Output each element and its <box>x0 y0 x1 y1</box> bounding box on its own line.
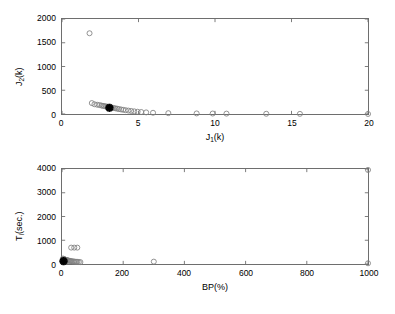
xtick-label-600: 600 <box>232 269 260 278</box>
chart-panel-bandwidth-time-space: 0 1000 2000 3000 4000 0 200 400 600 800 … <box>0 157 395 314</box>
data-point-circle <box>75 245 80 250</box>
ytick-label-4000: 4000 <box>20 164 56 173</box>
y-axis-title-subscript: 2 <box>18 78 25 82</box>
data-point-circle <box>194 111 199 116</box>
y-axis-title-base: T <box>14 236 24 242</box>
xtick-label-10: 10 <box>201 119 229 128</box>
x-axis-title-objective-space: J1(k) <box>151 132 279 143</box>
data-point-circle <box>166 111 171 116</box>
xtick-label-400: 400 <box>170 269 198 278</box>
scatter-layer-bandwidth-time-space <box>62 169 368 264</box>
y-axis-title-base: J <box>14 82 24 87</box>
y-axis-title-subscript: i <box>18 234 25 235</box>
data-point-circle <box>224 111 229 116</box>
xtick-label-5: 5 <box>124 119 152 128</box>
x-axis-title-tail: (k) <box>214 132 225 142</box>
data-point-circle <box>151 259 156 264</box>
data-point-circle <box>264 111 269 116</box>
data-point-circle <box>72 245 77 250</box>
ytick-label-1000: 1000 <box>20 237 56 246</box>
plot-area-objective-space <box>61 18 369 115</box>
xtick-label-1000: 1000 <box>355 269 383 278</box>
ytick-label-2000: 2000 <box>20 213 56 222</box>
x-axis-title-bandwidth: BP(%) <box>151 282 279 292</box>
plot-area-bandwidth-time-space <box>61 168 369 265</box>
y-axis-title-tail: (sec.) <box>14 212 24 235</box>
y-axis-title-time: Ti(sec.) <box>14 212 25 241</box>
data-point-circle <box>87 31 92 36</box>
xtick-label-200: 200 <box>108 269 136 278</box>
xtick-label-800: 800 <box>293 269 321 278</box>
scatter-layer-objective-space <box>62 19 368 114</box>
data-point-circle <box>151 110 156 115</box>
xtick-label-0: 0 <box>47 269 75 278</box>
ytick-label-1000: 1000 <box>20 63 56 72</box>
xtick-label-0: 0 <box>47 119 75 128</box>
data-point-circle <box>69 245 74 250</box>
y-axis-title-tail: (k) <box>14 67 24 78</box>
ytick-label-2000: 2000 <box>20 14 56 23</box>
figure-canvas: 0 500 1000 1500 2000 0 5 10 15 20 J1(k) … <box>0 0 395 314</box>
data-point-circle <box>139 110 144 115</box>
ytick-label-1500: 1500 <box>20 38 56 47</box>
xtick-label-15: 15 <box>278 119 306 128</box>
data-point-circle <box>297 111 302 116</box>
data-point-circle <box>210 111 215 116</box>
ytick-label-500: 500 <box>20 87 56 96</box>
y-axis-title-objective-space: J2(k) <box>14 67 25 86</box>
ytick-label-3000: 3000 <box>20 188 56 197</box>
xtick-label-20: 20 <box>355 119 383 128</box>
chart-panel-objective-space: 0 500 1000 1500 2000 0 5 10 15 20 J1(k) … <box>0 0 395 157</box>
data-point-circle <box>144 110 149 115</box>
